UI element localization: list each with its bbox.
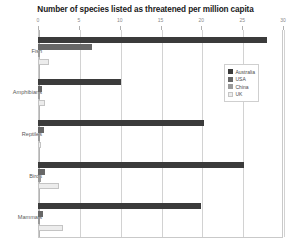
bar: [38, 225, 63, 231]
legend-label: China: [236, 84, 249, 90]
bar: [38, 142, 41, 148]
bar: [38, 183, 59, 189]
x-tick-label: 20: [193, 17, 209, 23]
x-tick-label: 25: [234, 17, 250, 23]
bar: [38, 162, 244, 168]
legend-swatch-usa: [228, 77, 233, 82]
bar: [38, 203, 201, 209]
bar: [38, 59, 49, 65]
legend-label: Australia: [236, 69, 255, 75]
chart-legend: AustraliaUSAChinaUK: [224, 64, 259, 102]
bar: [38, 169, 45, 175]
gridline: [284, 30, 285, 237]
bar: [38, 93, 40, 99]
legend-item[interactable]: USA: [228, 76, 255, 83]
bar: [38, 37, 267, 43]
x-tick-label: 5: [71, 17, 87, 23]
legend-label: UK: [236, 91, 243, 97]
bar: [38, 127, 44, 133]
bar: [38, 44, 92, 50]
legend-swatch-china: [228, 84, 233, 89]
x-tick-label: 15: [153, 17, 169, 23]
bar: [38, 211, 43, 217]
bar: [38, 79, 121, 85]
legend-swatch-uk: [228, 92, 233, 97]
x-tick-label: 30: [275, 17, 291, 23]
legend-item[interactable]: Australia: [228, 68, 255, 75]
bar: [38, 51, 40, 57]
bars-layer: [38, 30, 283, 238]
bar: [38, 120, 204, 126]
legend-item[interactable]: UK: [228, 91, 255, 98]
legend-label: USA: [236, 76, 246, 82]
legend-swatch-australia: [228, 69, 233, 74]
chart-container: Number of species listed as threatened p…: [0, 0, 291, 248]
bar: [38, 135, 40, 141]
x-tick-label: 0: [30, 17, 46, 23]
legend-item[interactable]: China: [228, 83, 255, 90]
bar: [38, 86, 42, 92]
bar: [38, 218, 40, 224]
x-tick-label: 10: [112, 17, 128, 23]
chart-title: Number of species listed as threatened p…: [0, 5, 291, 14]
bar: [38, 176, 41, 182]
bar: [38, 100, 45, 106]
